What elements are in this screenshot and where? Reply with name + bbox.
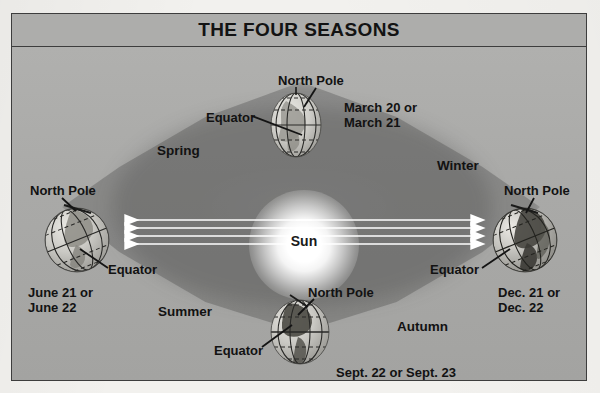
label-bottom-date: Sept. 22 or Sept. 23 <box>336 365 456 380</box>
diagram-canvas: Sun <box>12 47 586 380</box>
sun-label: Sun <box>249 233 359 249</box>
four-seasons-figure: THE FOUR SEASONS Sun <box>11 13 587 381</box>
label-bottom-equator: Equator <box>214 343 263 358</box>
figure-title: THE FOUR SEASONS <box>198 19 400 41</box>
label-left-equator: Equator <box>108 262 157 277</box>
label-left-date: June 21 or June 22 <box>28 285 93 315</box>
label-right-north-pole: North Pole <box>504 183 570 198</box>
season-label-spring: Spring <box>157 143 200 158</box>
label-bottom-north-pole: North Pole <box>308 285 374 300</box>
season-label-winter: Winter <box>437 158 479 173</box>
season-label-autumn: Autumn <box>397 319 448 334</box>
label-top-north-pole: North Pole <box>278 73 344 88</box>
scanned-page: THE FOUR SEASONS Sun <box>0 0 600 393</box>
figure-title-bar: THE FOUR SEASONS <box>12 14 586 47</box>
label-left-north-pole: North Pole <box>30 183 96 198</box>
season-label-summer: Summer <box>158 304 212 319</box>
globe-right <box>484 199 566 281</box>
label-top-equator: Equator <box>206 110 255 125</box>
label-top-date: March 20 or March 21 <box>344 100 417 130</box>
globe-top <box>260 83 332 163</box>
label-right-date: Dec. 21 or Dec. 22 <box>498 285 560 315</box>
globe-bottom <box>260 291 340 373</box>
globe-left <box>36 199 118 281</box>
label-right-equator: Equator <box>430 262 479 277</box>
